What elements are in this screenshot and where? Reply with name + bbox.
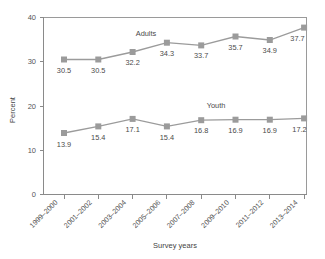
adults-marker-3 [164,40,170,46]
series-adults: 30.5 30.5 32.2 34.3 33.7 35.7 34.9 37.7 … [57,25,307,75]
adults-marker-7 [301,25,307,31]
adults-value-label-6: 34.9 [263,46,277,55]
youth-marker-2 [130,116,136,122]
youth-value-label-4: 16.8 [194,126,208,135]
x-axis-tick-labels: 1999–2000 2001–2002 2003–2004 2005–2006 … [28,198,300,230]
adults-value-label-3: 34.3 [160,49,174,58]
y-tick-label-30: 30 [28,57,36,66]
adults-marker-6 [267,37,273,43]
adults-value-label-0: 30.5 [57,66,71,75]
x-tick-label-4: 2007–2008 [165,198,197,230]
x-axis-ticks [64,195,304,199]
x-tick-label-0: 1999–2000 [28,198,60,230]
series-label-adults: Adults [136,29,157,38]
x-tick-label-2: 2003–2004 [96,198,128,230]
adults-marker-1 [95,57,101,63]
youth-value-label-3: 15.4 [160,133,174,142]
youth-value-label-0: 13.9 [57,140,71,149]
series-youth: 13.9 15.4 17.1 15.4 16.8 16.9 16.9 17.2 … [57,101,307,149]
adults-value-label-2: 32.2 [125,58,139,67]
chart-container: 0 10 20 30 40 Percent 1999–2000 2001–200… [0,0,325,259]
adults-marker-5 [233,34,239,40]
adults-marker-0 [61,57,67,63]
youth-marker-5 [233,117,239,123]
y-tick-label-0: 0 [32,190,36,199]
x-axis-title: Survey years [153,241,197,250]
youth-value-label-2: 17.1 [125,125,139,134]
y-tick-label-20: 20 [28,102,36,111]
youth-marker-7 [301,115,307,121]
youth-marker-0 [61,130,67,136]
youth-value-label-1: 15.4 [91,133,105,142]
adults-value-label-7: 37.7 [290,34,304,43]
x-tick-label-1: 2001–2002 [62,198,94,230]
youth-marker-6 [267,117,273,123]
adults-value-label-1: 30.5 [91,66,105,75]
line-chart: 0 10 20 30 40 Percent 1999–2000 2001–200… [0,0,325,259]
x-tick-label-3: 2005–2006 [131,198,163,230]
y-axis-ticks: 0 10 20 30 40 [28,13,44,199]
x-tick-label-5: 2009–2010 [199,198,231,230]
series-label-youth: Youth [207,101,226,110]
y-tick-label-40: 40 [28,13,36,22]
adults-marker-2 [130,49,136,55]
youth-value-label-6: 16.9 [263,126,277,135]
y-axis-title: Percent [8,96,17,123]
youth-marker-1 [95,123,101,129]
x-tick-label-6: 2011–2012 [234,198,265,229]
x-tick-label-7: 2013–2014 [268,198,300,230]
adults-value-label-5: 35.7 [228,43,242,52]
youth-value-label-7: 17.2 [292,125,306,134]
youth-marker-3 [164,123,170,129]
plot-area-border [44,18,307,195]
youth-marker-4 [198,117,204,123]
adults-marker-4 [198,42,204,48]
plot-frame [44,18,307,195]
youth-value-label-5: 16.9 [228,126,242,135]
adults-value-label-4: 33.7 [194,51,208,60]
y-tick-label-10: 10 [28,146,36,155]
